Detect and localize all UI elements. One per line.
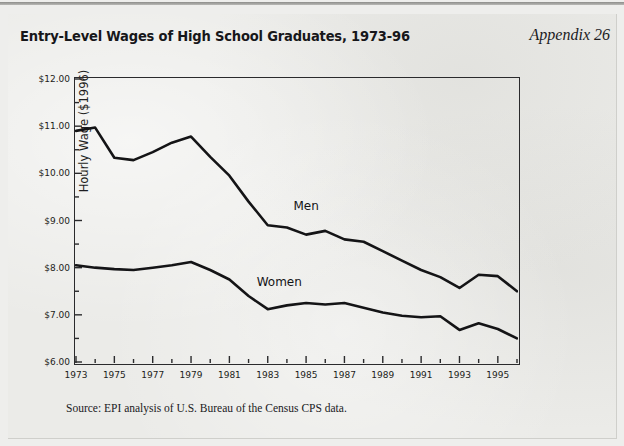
- series-label-women: Women: [257, 275, 302, 289]
- y-axis-tick-label: $12.00: [39, 74, 71, 84]
- series-line-women: [76, 262, 517, 338]
- x-axis-tick-label: 1973: [65, 370, 88, 380]
- series-label-men: Men: [293, 199, 318, 213]
- source-note: Source: EPI analysis of U.S. Bureau of t…: [66, 402, 347, 414]
- scanned-page: Entry-Level Wages of High School Graduat…: [0, 0, 624, 446]
- plot-svg: [75, 78, 518, 363]
- x-axis-tick-label: 1989: [371, 370, 394, 380]
- x-axis-tick-label: 1985: [295, 370, 318, 380]
- y-axis-tick-label: $7.00: [44, 310, 70, 320]
- x-axis-tick-label: 1981: [218, 370, 241, 380]
- page-top-rule: [0, 2, 624, 5]
- x-axis-tick-label: 1995: [486, 370, 509, 380]
- page-body: Entry-Level Wages of High School Graduat…: [8, 14, 617, 439]
- x-axis-tick-label: 1987: [333, 370, 356, 380]
- x-axis-tick-label: 1993: [448, 370, 471, 380]
- x-axis-tick-label: 1979: [180, 370, 203, 380]
- x-axis-tick-label: 1977: [141, 370, 164, 380]
- y-axis-tick-label: $9.00: [44, 216, 70, 226]
- x-axis-tick-label: 1991: [410, 370, 433, 380]
- y-axis-tick-label: $8.00: [44, 263, 70, 273]
- x-axis-tick-label: 1975: [103, 370, 126, 380]
- chart: $12.00$11.00$10.00$9.00$8.00$7.00$6.00 H…: [8, 14, 616, 438]
- plot-area: [74, 77, 520, 365]
- y-axis-tick-label: $11.00: [39, 121, 71, 131]
- y-axis-tick-labels: $12.00$11.00$10.00$9.00$8.00$7.00$6.00: [14, 77, 70, 365]
- y-axis-tick-label: $10.00: [39, 168, 71, 178]
- y-axis-tick-label: $6.00: [44, 357, 70, 367]
- x-axis-tick-label: 1983: [256, 370, 279, 380]
